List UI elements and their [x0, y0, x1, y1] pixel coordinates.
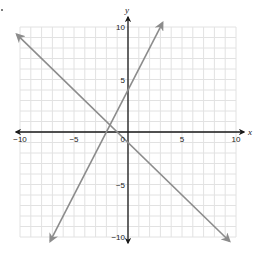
x-axis-label: x: [247, 127, 252, 137]
y-tick-label: −5: [116, 181, 126, 190]
y-tick-label: 10: [116, 23, 125, 32]
tick-labels: −10−5510105−5−100xy: [13, 5, 252, 242]
x-tick-label: −10: [13, 135, 27, 144]
y-tick-label: −10: [111, 233, 125, 242]
x-tick-label: 10: [232, 135, 241, 144]
y-tick-label: 5: [121, 76, 126, 85]
y-axis-label: y: [124, 5, 129, 15]
x-tick-label: −5: [69, 135, 79, 144]
axes: [16, 17, 244, 243]
x-tick-label: 5: [180, 135, 185, 144]
coordinate-plane: −10−5510105−5−100xy: [0, 0, 259, 259]
origin-label: 0: [121, 135, 126, 144]
